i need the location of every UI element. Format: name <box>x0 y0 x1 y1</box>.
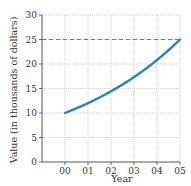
chart: 051015202530 000102030405 Year Value (in… <box>0 0 191 186</box>
x-tick-label: 05 <box>174 166 186 176</box>
y-axis-label: Value (in thousands of dollars) <box>8 17 19 165</box>
x-tick-label: 04 <box>151 166 163 176</box>
grid-lines <box>42 15 180 162</box>
axes <box>39 15 180 165</box>
y-tick-labels: 051015202530 <box>26 10 38 167</box>
x-tick-label: 00 <box>59 166 71 176</box>
y-tick-label: 15 <box>26 84 38 94</box>
y-tick-label: 20 <box>26 59 38 69</box>
y-tick-label: 30 <box>26 10 38 20</box>
x-tick-label: 01 <box>82 166 93 176</box>
x-axis-label: Year <box>110 173 133 184</box>
y-tick-label: 5 <box>31 133 37 143</box>
y-tick-label: 25 <box>26 35 38 45</box>
y-tick-label: 0 <box>31 157 37 167</box>
y-tick-label: 10 <box>26 108 38 118</box>
value-curve <box>65 40 180 114</box>
